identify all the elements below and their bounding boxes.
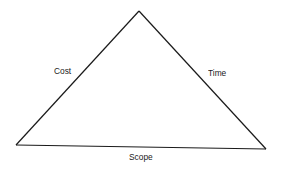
edge-time <box>139 11 266 149</box>
label-cost: Cost <box>54 66 71 76</box>
triangle-diagram <box>0 0 282 174</box>
label-time: Time <box>208 68 226 78</box>
edge-cost <box>16 11 139 145</box>
label-scope: Scope <box>129 152 153 162</box>
edge-scope <box>16 145 266 149</box>
